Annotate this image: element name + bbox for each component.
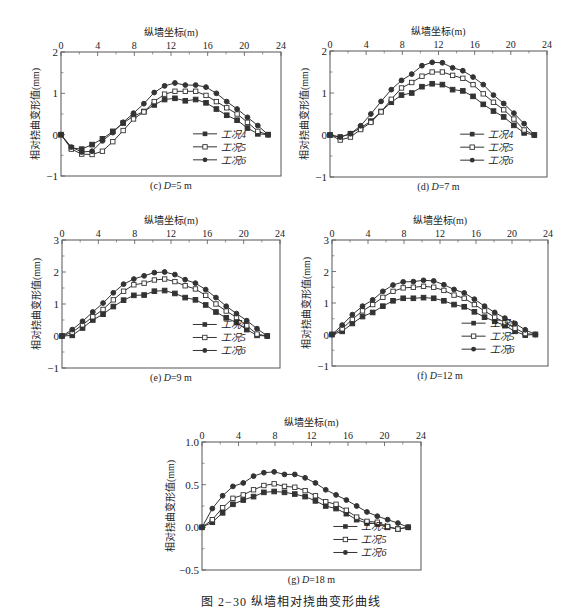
marker-square-filled [193, 298, 198, 303]
marker-square-filled [224, 113, 229, 118]
marker-circle-filled [152, 90, 157, 95]
marker-circle-filled [231, 484, 236, 489]
marker-square-open [225, 106, 229, 110]
x-tick-label: 0 [200, 430, 205, 441]
marker-circle-filled [389, 87, 394, 92]
marker-square-open [121, 128, 125, 132]
marker-square-filled [450, 87, 455, 92]
y-tick-label: −1 [317, 360, 329, 372]
subplot-title: (g) D=18 m [288, 574, 336, 586]
marker-circle-filled [214, 295, 219, 300]
marker-square-filled [214, 107, 219, 112]
marker-square-open [354, 515, 358, 519]
marker-square-filled [472, 310, 477, 315]
marker-square-open [235, 112, 239, 116]
marker-square-filled [193, 97, 198, 102]
y-tick-label: 1 [322, 87, 328, 99]
marker-circle-filled [131, 111, 136, 116]
x-tick-label: 8 [132, 40, 137, 51]
marker-square-open [420, 74, 424, 78]
marker-square-open [471, 82, 475, 86]
marker-square-open [482, 309, 486, 313]
marker-circle-filled [90, 149, 95, 154]
marker-circle-filled [131, 277, 136, 282]
marker-circle-filled [59, 132, 64, 137]
legend-marker-square-filled [203, 132, 208, 137]
plot-frame [61, 52, 281, 176]
marker-square-open [173, 279, 177, 283]
marker-square-filled [220, 511, 225, 516]
marker-circle-filled [411, 279, 416, 284]
marker-circle-filled [338, 135, 343, 140]
marker-circle-filled [261, 470, 266, 475]
figure-caption: 图 2−30 纵墙相对挠曲变形曲线 [0, 592, 582, 610]
marker-square-open [442, 288, 446, 292]
x-tick-label: 8 [402, 228, 407, 239]
marker-square-filled [420, 84, 425, 89]
marker-circle-filled [110, 130, 115, 135]
marker-circle-filled [121, 282, 126, 287]
legend-label: 工况5 [488, 142, 513, 153]
marker-square-open [245, 120, 249, 124]
marker-circle-filled [401, 279, 406, 284]
subplot-title: (f) D=12 m [417, 370, 463, 382]
marker-square-open [410, 80, 414, 84]
y-tick-label: 2 [324, 266, 330, 278]
marker-square-open [173, 89, 177, 93]
marker-circle-filled [409, 72, 414, 77]
marker-square-open [131, 117, 135, 121]
marker-circle-filled [173, 81, 178, 86]
legend-label: 工况5 [490, 331, 515, 342]
x-tick-label: 0 [60, 228, 65, 239]
marker-circle-filled [183, 277, 188, 282]
marker-square-open [152, 278, 156, 282]
marker-square-open [430, 70, 434, 74]
marker-square-filled [360, 314, 365, 319]
y-tick-label: 1 [54, 298, 60, 310]
chart-panel-c: 04812162024纵墙坐标(m)210−1相对挠曲变形值(mm)工况4工况5… [29, 26, 286, 192]
marker-square-open [91, 315, 95, 319]
marker-square-open [121, 289, 125, 293]
marker-square-filled [293, 492, 298, 497]
x-axis-title: 纵墙坐标(m) [144, 26, 198, 39]
marker-square-filled [461, 89, 466, 94]
marker-square-filled [303, 494, 308, 499]
marker-circle-filled [255, 326, 260, 331]
marker-circle-filled [350, 312, 355, 317]
marker-square-open [334, 502, 338, 506]
marker-square-open [360, 309, 364, 313]
x-tick-label: 4 [236, 430, 241, 441]
marker-square-filled [235, 118, 240, 123]
legend-label: 工况4 [221, 319, 246, 330]
marker-circle-filled [241, 481, 246, 486]
marker-square-open [152, 99, 156, 103]
legend-label: 工况4 [361, 521, 386, 532]
marker-circle-filled [399, 78, 404, 83]
marker-square-filled [262, 490, 267, 495]
marker-circle-filled [70, 327, 75, 332]
marker-circle-filled [255, 123, 260, 128]
marker-square-open [241, 493, 245, 497]
legend-label: 工况6 [221, 345, 246, 356]
x-axis-title: 纵墙坐标(m) [284, 416, 338, 429]
x-tick-label: 20 [506, 39, 516, 50]
legend-label: 工况6 [221, 155, 246, 166]
marker-circle-filled [430, 60, 435, 65]
marker-circle-filled [204, 85, 209, 90]
marker-circle-filled [523, 327, 528, 332]
marker-square-open [396, 527, 400, 531]
marker-circle-filled [344, 498, 349, 503]
marker-square-filled [421, 295, 426, 300]
y-axis-title: 相对挠曲变形值(mm) [30, 258, 43, 350]
marker-square-open [272, 482, 276, 486]
marker-square-filled [323, 504, 328, 509]
marker-circle-filled [481, 82, 486, 87]
marker-circle-filled [69, 145, 74, 150]
marker-square-filled [214, 310, 219, 315]
marker-circle-filled [368, 112, 373, 117]
marker-square-filled [431, 296, 436, 301]
marker-square-open [111, 298, 115, 302]
legend-label: 工况5 [361, 534, 386, 545]
figure-canvas: 04812162024纵墙坐标(m)210−1相对挠曲变形值(mm)工况4工况5… [0, 0, 582, 614]
y-tick-label: 0 [54, 330, 60, 342]
